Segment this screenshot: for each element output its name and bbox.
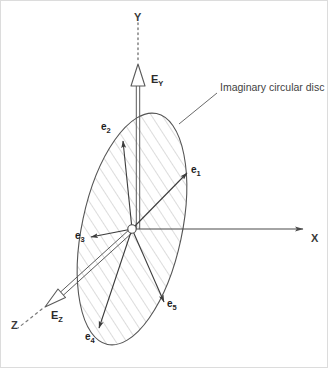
y-axis-hollow-arrowhead <box>131 64 145 86</box>
vector-label-e3: e3 <box>75 230 85 244</box>
disc-callout-leader-line <box>179 93 217 124</box>
z-axis-hollow-arrowhead <box>45 289 66 307</box>
z-axis-label: Z <box>11 319 18 333</box>
vector-label-e5: e5 <box>167 298 177 312</box>
origin-marker <box>128 225 136 233</box>
vector-label-e4: e4 <box>85 331 95 345</box>
vector-label-e3-subscript: 3 <box>81 235 85 244</box>
ez-field-subscript: Z <box>58 315 63 324</box>
vector-label-e2-subscript: 2 <box>107 126 111 135</box>
vector-label-e4-subscript: 4 <box>91 336 95 345</box>
vector-label-e1-subscript: 1 <box>197 169 201 178</box>
disc-callout-label: Imaginary circular disc <box>220 81 324 94</box>
vector-label-e5-subscript: 5 <box>173 303 177 312</box>
vector-label-e1: e1 <box>191 164 201 178</box>
y-axis-label: Y <box>134 11 141 25</box>
diagram-canvas: Y EY X Z EZ e1 e2 e3 e4 e5 Imaginary cir… <box>0 0 328 368</box>
ey-field-label: EY <box>151 73 163 89</box>
ey-field-subscript: Y <box>158 79 163 88</box>
ez-field-label: EZ <box>51 309 63 325</box>
x-axis-label: X <box>311 232 318 246</box>
z-axis-dashed-extension <box>18 309 42 328</box>
vector-label-e2: e2 <box>101 121 111 135</box>
